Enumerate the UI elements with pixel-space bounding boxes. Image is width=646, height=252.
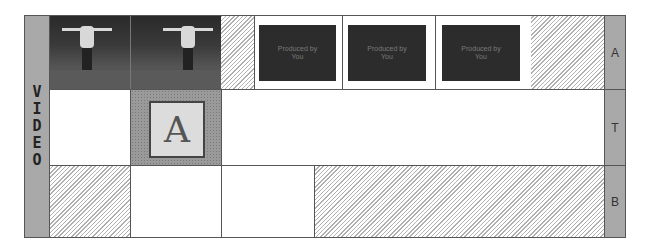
- audio-track-label: A: [605, 16, 625, 89]
- empty-slot[interactable]: [221, 16, 254, 89]
- background-track-label: B: [605, 166, 625, 237]
- text-clip-1[interactable]: Produced by You: [255, 16, 342, 89]
- label-letter: O: [32, 152, 41, 169]
- video-clip-2[interactable]: [131, 16, 221, 89]
- clip-text: Produced by: [278, 45, 317, 53]
- text-clip-3[interactable]: Produced by You: [436, 16, 531, 89]
- clip-text: You: [381, 53, 393, 61]
- video-track-label: V I D E O: [25, 16, 49, 237]
- title-clip[interactable]: A: [131, 90, 221, 165]
- empty-slot[interactable]: [531, 16, 604, 89]
- label-letter: I: [32, 101, 41, 118]
- text-clip-2[interactable]: Produced by You: [343, 16, 435, 89]
- timeline-storyboard: V I D E O Produced by You Produced by Yo…: [24, 15, 626, 238]
- title-track-label: T: [605, 90, 625, 165]
- video-clip-1[interactable]: [50, 16, 130, 89]
- title-glyph: A: [149, 101, 205, 158]
- empty-slot[interactable]: [50, 166, 130, 237]
- label-letter: D: [32, 118, 41, 135]
- label-letter: V: [32, 84, 41, 101]
- clip-text: Produced by: [461, 45, 500, 53]
- clip-text: Produced by: [367, 45, 406, 53]
- clip-text: You: [292, 53, 304, 61]
- empty-slot[interactable]: [315, 166, 604, 237]
- clip-text: You: [475, 53, 487, 61]
- label-letter: E: [32, 135, 41, 152]
